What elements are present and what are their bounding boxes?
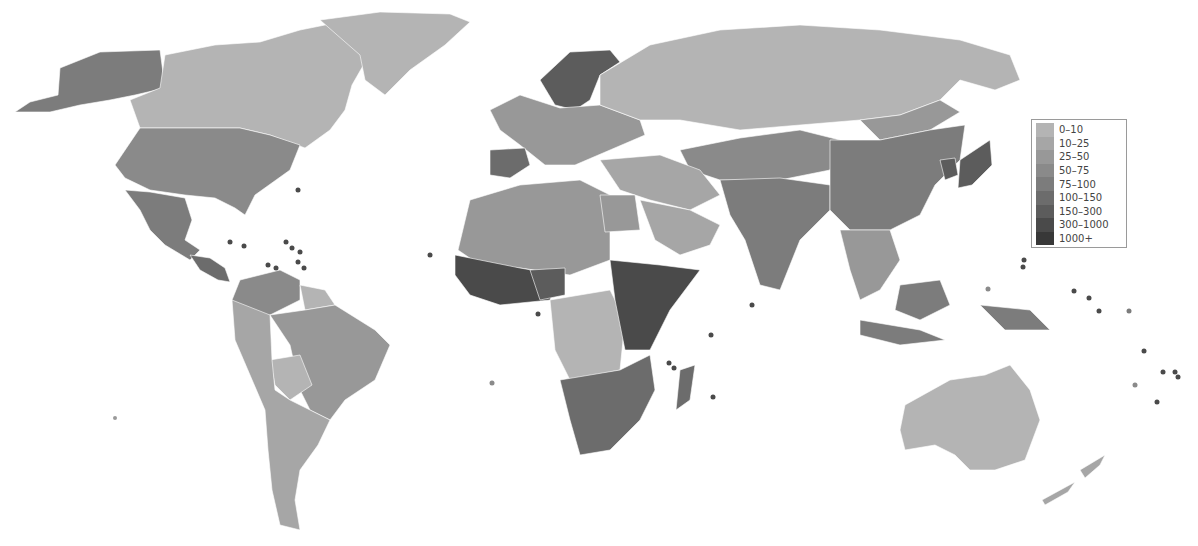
- legend-swatch: [1036, 164, 1054, 178]
- map-legend: 0–10 10–25 25–50 50–75 75–100 100–150 15…: [1031, 119, 1127, 248]
- region-central-africa: [550, 290, 625, 380]
- legend-label: 300–1000: [1059, 218, 1109, 231]
- legend-label: 1000+: [1059, 232, 1093, 245]
- legend-label: 50–75: [1059, 164, 1089, 177]
- legend-label: 150–300: [1059, 205, 1102, 218]
- legend-swatch: [1036, 205, 1054, 219]
- region-australia: [900, 365, 1040, 470]
- legend-swatch: [1036, 191, 1054, 205]
- legend-label: 75–100: [1059, 178, 1096, 191]
- region-southeast-asia: [840, 230, 900, 300]
- region-south-asia: [720, 178, 830, 290]
- region-east-africa: [610, 260, 700, 350]
- legend-item: 300–1000: [1036, 218, 1122, 232]
- legend-item: 100–150: [1036, 191, 1122, 205]
- region-new-zealand: [1042, 455, 1105, 505]
- world-map: [0, 0, 1198, 546]
- legend-item: 150–300: [1036, 205, 1122, 219]
- legend-swatch: [1036, 232, 1054, 246]
- legend-swatch: [1036, 150, 1054, 164]
- legend-swatch: [1036, 218, 1054, 232]
- legend-item: 10–25: [1036, 137, 1122, 151]
- region-madagascar: [676, 365, 695, 410]
- region-arabia: [640, 200, 720, 255]
- legend-item: 1000+: [1036, 232, 1122, 246]
- legend-item: 50–75: [1036, 164, 1122, 178]
- legend-label: 100–150: [1059, 191, 1102, 204]
- legend-label: 25–50: [1059, 150, 1089, 163]
- legend-swatch: [1036, 123, 1054, 137]
- region-central-america: [190, 255, 230, 282]
- legend-label: 0–10: [1059, 123, 1083, 136]
- region-egypt: [600, 195, 640, 232]
- legend-item: 25–50: [1036, 150, 1122, 164]
- region-indonesia: [860, 280, 1050, 345]
- region-central-asia: [680, 130, 840, 180]
- region-mexico: [125, 190, 200, 260]
- legend-item: 75–100: [1036, 177, 1122, 191]
- legend-swatch: [1036, 177, 1054, 191]
- region-iberia: [490, 148, 530, 178]
- legend-swatch: [1036, 137, 1054, 151]
- region-russia: [600, 25, 1020, 130]
- legend-item: 0–10: [1036, 123, 1122, 137]
- legend-label: 10–25: [1059, 137, 1089, 150]
